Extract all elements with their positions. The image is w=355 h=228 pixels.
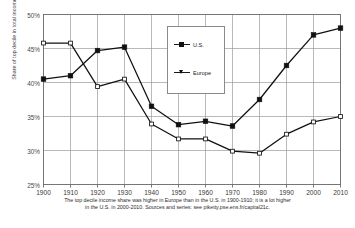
legend-marker-triangle-icon	[174, 69, 190, 76]
data-point-us	[230, 124, 235, 129]
data-point-us	[149, 104, 154, 109]
data-point-europe	[258, 151, 262, 155]
chart-figure: Share of top decile in total income 25%3…	[0, 0, 355, 228]
chart-legend: U.S. Europe	[167, 26, 225, 94]
data-point-europe	[339, 115, 343, 119]
data-point-europe	[204, 137, 208, 141]
data-point-us	[68, 73, 73, 78]
data-point-us	[257, 97, 262, 102]
data-point-us	[176, 122, 181, 127]
data-point-europe	[42, 41, 46, 45]
data-point-europe	[123, 77, 127, 81]
legend-item-us: U.S.	[174, 41, 204, 48]
data-point-europe	[285, 132, 289, 136]
data-point-us	[122, 45, 127, 50]
data-point-europe	[69, 41, 73, 45]
legend-marker-square-icon	[174, 41, 190, 48]
data-point-us	[203, 119, 208, 124]
caption-line-1: The top decile income share was higher i…	[0, 197, 355, 204]
data-point-europe	[312, 120, 316, 124]
data-point-europe	[150, 122, 154, 126]
legend-label-europe: Europe	[193, 70, 211, 76]
data-point-us	[311, 33, 316, 38]
caption-line-2: in the U.S. in 2000-2010. Sources and se…	[0, 204, 355, 211]
legend-label-us: U.S.	[193, 42, 204, 48]
data-point-europe	[231, 149, 235, 153]
legend-item-europe: Europe	[174, 69, 211, 76]
data-point-us	[95, 48, 100, 53]
data-point-europe	[177, 137, 181, 141]
data-point-europe	[96, 85, 100, 89]
chart-caption: The top decile income share was higher i…	[0, 197, 355, 211]
data-point-us	[41, 77, 46, 82]
data-point-us	[284, 63, 289, 68]
data-point-us	[338, 26, 343, 31]
